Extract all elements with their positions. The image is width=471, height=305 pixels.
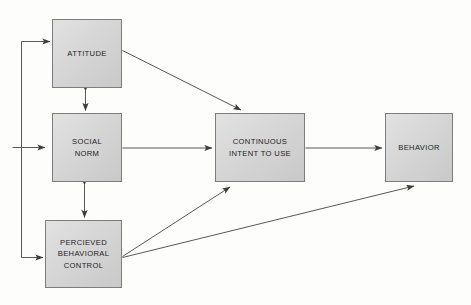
- edge-pbc-to-behavior: [123, 186, 415, 258]
- node-pbc-label-line-2: BEHAVIORAL: [58, 248, 109, 260]
- edge-attitude-to-intent: [123, 51, 242, 111]
- diagram-canvas: ATTITUDE SOCIAL NORM PERCIEVED BEHAVIORA…: [0, 0, 471, 305]
- node-pbc-label-line-1: PERCIEVED: [60, 237, 107, 249]
- node-social-norm[interactable]: SOCIAL NORM: [52, 113, 122, 182]
- node-continuous-intent-label-line-2: INTENT TO USE: [229, 148, 291, 160]
- node-behavior[interactable]: BEHAVIOR: [385, 113, 453, 182]
- node-attitude-label-line-1: ATTITUDE: [67, 48, 106, 60]
- node-attitude[interactable]: ATTITUDE: [52, 19, 122, 88]
- node-continuous-intent[interactable]: CONTINUOUS INTENT TO USE: [215, 113, 305, 182]
- node-behavior-label-line-1: BEHAVIOR: [398, 142, 439, 154]
- node-continuous-intent-label-line-1: CONTINUOUS: [233, 136, 288, 148]
- edge-pbc-to-intent: [123, 187, 231, 257]
- node-social-norm-label-line-2: NORM: [75, 148, 100, 160]
- node-social-norm-label-line-1: SOCIAL: [72, 136, 102, 148]
- node-pbc-label-line-3: CONTROL: [64, 260, 104, 272]
- node-perceived-behavioral-control[interactable]: PERCIEVED BEHAVIORAL CONTROL: [45, 220, 122, 288]
